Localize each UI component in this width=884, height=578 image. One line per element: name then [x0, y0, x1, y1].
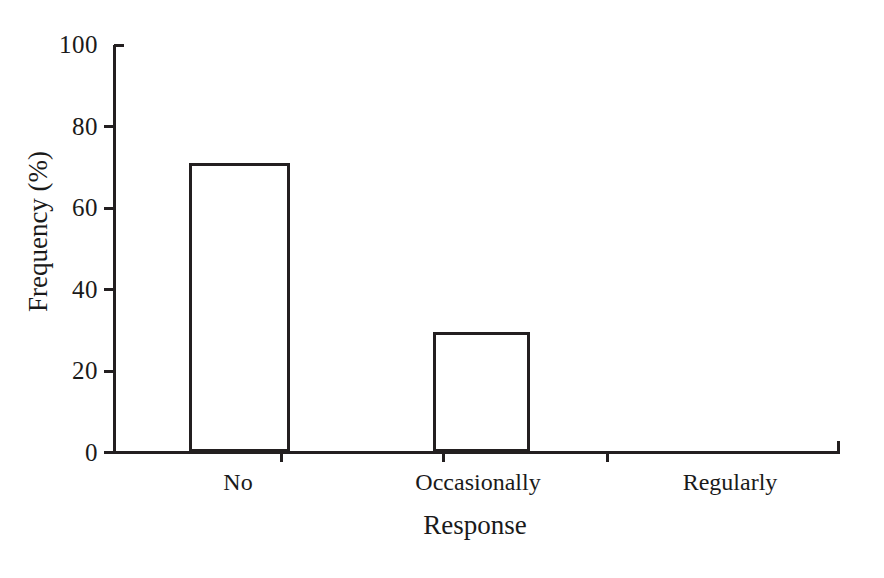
y-axis-spine	[113, 45, 116, 452]
y-axis-title: Frequency (%)	[25, 112, 52, 352]
x-tick-label-regularly: Regularly	[683, 470, 778, 494]
y-tick-100	[114, 44, 124, 47]
y-tick-label-100: 100	[28, 32, 98, 57]
x-tick-divider-1	[280, 451, 283, 462]
x-tick-divider-2	[442, 451, 445, 462]
x-tick-label-no: No	[223, 470, 252, 494]
y-tick-40	[104, 288, 114, 291]
bar-occasionally	[433, 332, 530, 452]
y-tick-80	[104, 125, 114, 128]
x-axis-title: Response	[0, 512, 884, 539]
bar-no	[189, 163, 290, 452]
x-tick-start	[113, 441, 116, 452]
y-tick-20	[104, 370, 114, 373]
x-tick-divider-3	[606, 451, 609, 462]
y-tick-label-20: 20	[28, 358, 98, 383]
x-tick-end	[837, 441, 840, 452]
y-tick-label-0: 0	[28, 440, 98, 465]
y-tick-60	[104, 207, 114, 210]
bar-chart-figure: 100 80 60 40 20 0 Frequency (%) No Occas…	[0, 0, 884, 578]
x-tick-label-occasionally: Occasionally	[415, 470, 540, 494]
